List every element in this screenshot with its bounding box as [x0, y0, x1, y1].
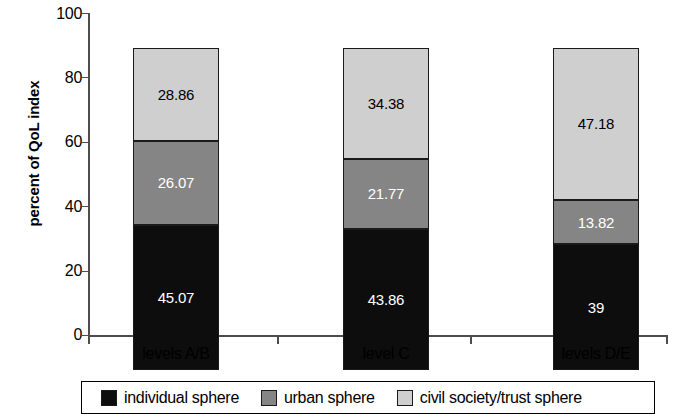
x-category-label-2: levels D/E	[496, 345, 696, 363]
bar-segment-urban-0[interactable]: 26.07	[133, 141, 219, 225]
y-tick-mark-20	[82, 271, 89, 272]
y-tick-mark-60	[82, 142, 89, 143]
bar-value-label: 47.18	[578, 115, 615, 132]
y-tick-label-20: 20	[42, 263, 82, 279]
bar-value-label: 21.77	[368, 185, 405, 202]
y-tick-label-80: 80	[42, 70, 82, 86]
bar-segment-urban-2[interactable]: 13.82	[553, 200, 639, 245]
bar-value-label: 43.86	[368, 291, 405, 308]
y-tick-label-0: 0	[42, 327, 82, 343]
bar-value-label: 28.86	[158, 86, 195, 103]
x-category-label-0: levels A/B	[76, 345, 276, 363]
bar-segment-civil-2[interactable]: 47.18	[553, 48, 639, 200]
bar-value-label: 26.07	[158, 174, 195, 191]
legend-swatch-icon-civil	[397, 390, 413, 406]
bar-levels-de[interactable]: 47.18 13.82 39	[553, 48, 639, 370]
bar-level-c[interactable]: 34.38 21.77 43.86	[343, 48, 429, 370]
bar-value-label: 39	[588, 299, 604, 316]
y-tick-mark-100	[82, 13, 89, 14]
bar-value-label: 13.82	[578, 214, 615, 231]
chart-legend: individual sphere urban sphere civil soc…	[81, 381, 655, 414]
x-tick-mark-2	[470, 336, 472, 344]
legend-swatch-icon-urban	[261, 390, 277, 406]
y-tick-mark-40	[82, 206, 89, 207]
y-tick-label-40: 40	[42, 199, 82, 215]
legend-item-individual-sphere[interactable]: individual sphere	[101, 389, 239, 407]
bar-segment-urban-1[interactable]: 21.77	[343, 159, 429, 229]
x-category-label-1: level C	[286, 345, 486, 363]
legend-label: individual sphere	[124, 389, 239, 407]
y-tick-mark-80	[82, 77, 89, 78]
x-tick-mark-1	[277, 336, 279, 344]
legend-item-civil-society-trust-sphere[interactable]: civil society/trust sphere	[397, 389, 582, 407]
y-axis-line	[88, 13, 90, 336]
bar-segment-civil-1[interactable]: 34.38	[343, 48, 429, 159]
y-tick-label-100: 100	[42, 6, 82, 22]
y-tick-label-60: 60	[42, 134, 82, 150]
legend-label: urban sphere	[284, 389, 375, 407]
legend-label: civil society/trust sphere	[420, 389, 582, 407]
bar-value-label: 45.07	[158, 289, 195, 306]
bar-levels-ab[interactable]: 28.86 26.07 45.07	[133, 48, 219, 370]
legend-item-urban-sphere[interactable]: urban sphere	[261, 389, 375, 407]
bar-segment-civil-0[interactable]: 28.86	[133, 48, 219, 141]
legend-swatch-icon-individual	[101, 390, 117, 406]
bar-value-label: 34.38	[368, 95, 405, 112]
chart-plot-area: 100 80 60 40 20 0 28.86 26.07 45.07 34.3…	[0, 0, 697, 370]
x-tick-mark-3	[666, 336, 668, 344]
x-tick-mark-0	[88, 336, 90, 344]
